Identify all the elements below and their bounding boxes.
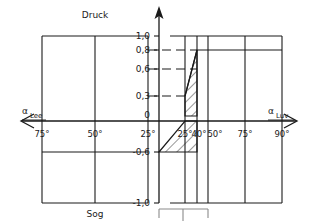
axis-label-luv-alpha: α (268, 106, 274, 116)
bottom-bracket (159, 209, 208, 221)
xtick-label-lee-50: 50° (87, 129, 102, 139)
xtick-label-lee-25: 25° (140, 129, 155, 139)
axis-label-lee-alpha: α (22, 106, 28, 116)
ytick-label-minus10: -1,0 (132, 198, 150, 208)
left-grid (42, 36, 148, 203)
y-axis-ticks (154, 36, 159, 203)
right-grid (170, 36, 282, 203)
axis-label-luv-sub: Luv (276, 112, 288, 120)
xtick-label-luv-90: 90° (274, 129, 289, 139)
diagram-canvas: 1,0 0,8 0,6 0,3 0 -0,6 -1,0 75° 50° 25° … (0, 0, 318, 224)
ytick-label-minus06: -0,6 (132, 147, 150, 157)
ytick-label-10: 1,0 (136, 31, 151, 41)
region-label-sog: Sog (87, 209, 104, 219)
ytick-label-08: 0,8 (136, 45, 151, 55)
upper-hatched-region (185, 50, 197, 116)
region-label-druck: Druck (82, 10, 109, 20)
ytick-label-0: 0 (144, 110, 150, 120)
ytick-label-03: 0,3 (136, 91, 150, 101)
pressure-distribution-diagram: 1,0 0,8 0,6 0,3 0 -0,6 -1,0 75° 50° 25° … (0, 0, 318, 224)
xtick-label-luv-40: 40° (191, 129, 206, 139)
ytick-label-06: 0,6 (136, 64, 151, 74)
axis-label-lee-sub: Lee (30, 112, 42, 120)
xtick-label-luv-50: 50° (207, 129, 222, 139)
xtick-label-luv-75: 75° (237, 129, 252, 139)
xtick-label-luv-25: 25° (177, 129, 192, 139)
xtick-label-lee-75: 75° (34, 129, 49, 139)
upper-hatched-polygon (185, 50, 197, 116)
